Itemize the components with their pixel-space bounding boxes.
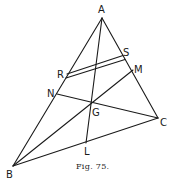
median-CN: [57, 94, 158, 118]
figure-caption: Fig. 75.: [76, 162, 109, 171]
median-BM: [13, 70, 133, 166]
side-AC: [102, 18, 158, 118]
label-S: S: [123, 47, 129, 58]
label-A: A: [98, 4, 105, 15]
label-N: N: [47, 88, 54, 99]
side-AB: [13, 18, 102, 166]
label-R: R: [57, 69, 64, 80]
label-B: B: [6, 169, 13, 180]
median-AL: [86, 18, 102, 143]
side-BC: [13, 118, 158, 166]
label-L: L: [84, 146, 90, 157]
geometry-figure: A S M R N G C L B Fig. 75.: [0, 0, 174, 181]
label-M: M: [134, 64, 143, 75]
label-G: G: [92, 107, 100, 118]
label-C: C: [160, 117, 167, 128]
